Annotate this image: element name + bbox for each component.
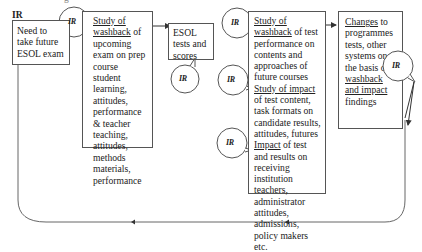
esol-text: ESOL tests and scores	[173, 27, 206, 61]
box-esol-tests-scores: ESOL tests and scores	[168, 23, 214, 60]
study1-title-2: washback	[93, 26, 131, 37]
ir-label-changes: IR	[392, 61, 400, 70]
ir-circle-study2-mid	[218, 65, 252, 95]
box-study-washback-impact: Study of washback of test performance on…	[248, 11, 326, 194]
study1-title-1: Study of	[93, 15, 126, 26]
ir-label-study2-bottom: IR	[226, 138, 234, 147]
ir-label-esol: IR	[179, 74, 187, 83]
ir-label-study2-top: IR	[231, 18, 239, 27]
need-exam-text: Need to take future ESOL exam	[17, 25, 64, 59]
changes-body-2: findings	[345, 96, 376, 107]
box-need-exam: Need to take future ESOL exam	[12, 20, 70, 65]
ir-label-study2-mid: IR	[227, 75, 235, 84]
changes-title: Changes	[345, 16, 378, 27]
ir-label-1: IR	[68, 17, 76, 26]
study2-body-3: of test and results on receiving institu…	[254, 139, 308, 252]
ir-circle-study2-bottom	[217, 128, 252, 158]
changes-underlined: washback and impact	[345, 73, 387, 95]
study2-title-impact: Study of impact	[254, 83, 315, 94]
study2-body-2: of test content, task formats on candida…	[254, 94, 321, 139]
box-changes: Changes to programmes tests, other syste…	[338, 11, 403, 129]
study2-title-impact-results: Impact	[254, 139, 281, 150]
box-study-washback-upcoming: Study of washback of upcoming exam on pr…	[82, 11, 153, 148]
study2-title-washback: Study of washback	[254, 15, 292, 37]
